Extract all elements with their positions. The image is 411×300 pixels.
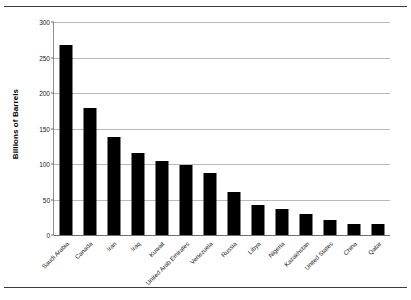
bar[interactable]	[324, 220, 337, 235]
bar-slot	[246, 22, 270, 235]
x-tick-label: Iran	[105, 240, 117, 252]
bar[interactable]	[276, 209, 289, 235]
bar[interactable]	[132, 153, 145, 235]
bar[interactable]	[108, 137, 121, 235]
x-tick-label: Canada	[74, 240, 94, 260]
x-tick-label: Nigeria	[267, 240, 286, 259]
y-tick-label-300: 300	[39, 19, 50, 26]
bar[interactable]	[204, 173, 217, 235]
x-tick-label: United Arab Emirates	[144, 240, 190, 286]
bar-slot	[294, 22, 318, 235]
y-tick-label-100: 100	[39, 161, 50, 168]
page-rule-bottom	[4, 287, 407, 288]
bar-slot	[54, 22, 78, 235]
bar-slot	[366, 22, 390, 235]
y-tick-label-150: 150	[39, 125, 50, 132]
bar[interactable]	[156, 161, 169, 235]
bar[interactable]	[180, 165, 193, 235]
y-tick-label-200: 200	[39, 90, 50, 97]
y-tick-label-0: 0	[46, 232, 50, 239]
bar-slot	[198, 22, 222, 235]
bar[interactable]	[60, 45, 73, 235]
x-tick-label: Saudi Arabia	[40, 240, 70, 270]
bar[interactable]	[348, 224, 361, 235]
page-rule-top	[4, 6, 407, 7]
y-axis-title: Billions of Barrels	[8, 4, 24, 244]
x-tick-label: China	[342, 240, 358, 256]
bar-series	[54, 22, 390, 235]
bar[interactable]	[252, 205, 265, 235]
bar-slot	[78, 22, 102, 235]
x-tick-label: Russia	[220, 240, 238, 258]
x-axis-category-labels: Saudi ArabiaCanadaIranIraqKuwaitUnited A…	[53, 237, 389, 287]
bar-slot	[126, 22, 150, 235]
x-tick-label: Kuwait	[148, 240, 166, 258]
bar-slot	[342, 22, 366, 235]
bar-slot	[150, 22, 174, 235]
x-tick-label: Libya	[247, 240, 262, 255]
bar-slot	[270, 22, 294, 235]
x-tick-label: Qatar	[366, 240, 382, 256]
y-tick-label-250: 250	[39, 54, 50, 61]
x-tick-label: Iraq	[129, 240, 141, 252]
bar-slot	[102, 22, 126, 235]
bar[interactable]	[300, 214, 313, 235]
gridline-0	[54, 235, 390, 236]
plot-area: 050100150200250300	[53, 22, 390, 235]
bar-slot	[222, 22, 246, 235]
bar[interactable]	[228, 192, 241, 235]
bar[interactable]	[372, 224, 385, 235]
bar-slot	[174, 22, 198, 235]
bar-slot	[318, 22, 342, 235]
x-tick-label: Venezuela	[189, 240, 214, 265]
bar[interactable]	[84, 108, 97, 235]
y-tick-label-50: 50	[43, 196, 50, 203]
bar-chart-figure: Billions of Barrels 050100150200250300 S…	[0, 14, 411, 286]
